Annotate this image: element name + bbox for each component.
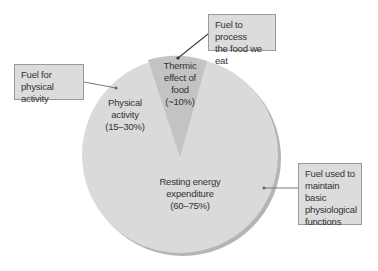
callout-thermic: Fuel to process the food we eat [208, 14, 276, 51]
label-line: activity [95, 109, 155, 121]
label-line: (~10%) [155, 96, 205, 108]
label-line: effect of [155, 72, 205, 84]
leader-dot-resting [263, 187, 266, 190]
callout-line: Fuel for physical [21, 69, 77, 93]
slice-label-physical: Physical activity (15–30%) [95, 97, 155, 133]
callout-line: Fuel used to [305, 168, 355, 180]
slice-label-resting: Resting energy expenditure (60–75%) [150, 176, 230, 212]
callout-physical: Fuel for physical activity [14, 64, 84, 100]
label-line: food [155, 84, 205, 96]
label-line: Physical [95, 97, 155, 109]
callout-line: activity [21, 93, 77, 105]
label-line: (15–30%) [95, 121, 155, 133]
slice-label-thermic: Thermic effect of food (~10%) [155, 60, 205, 108]
label-line: Resting energy [150, 176, 230, 188]
leader-line-thermic [178, 34, 208, 58]
callout-line: physiological [305, 204, 355, 216]
label-line: (60–75%) [150, 200, 230, 212]
pie-chart [0, 0, 378, 271]
label-line: expenditure [150, 188, 230, 200]
leader-dot-physical [115, 87, 118, 90]
callout-resting: Fuel used to maintain basic physiologica… [298, 163, 362, 225]
callout-line: maintain basic [305, 180, 355, 204]
label-line: Thermic [155, 60, 205, 72]
leader-line-physical [84, 82, 116, 88]
callout-line: functions [305, 216, 355, 228]
callout-line: Fuel to process [215, 19, 269, 43]
callout-line: the food we eat [215, 43, 269, 67]
